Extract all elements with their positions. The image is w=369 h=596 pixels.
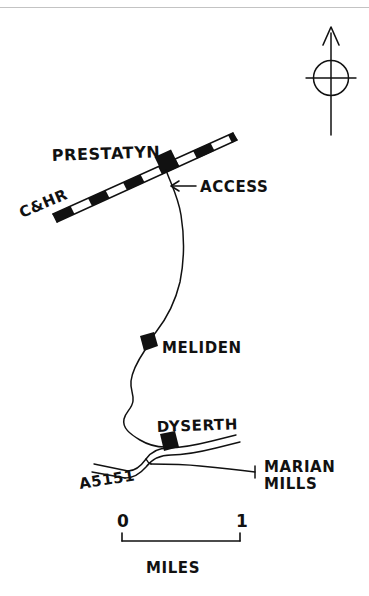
map-canvas: PRESTATYN C&HR ACCESS MELIDEN DYSERTH A5…	[0, 0, 369, 596]
label-a5151: A5151	[78, 466, 136, 493]
label-meliden: MELIDEN	[162, 339, 242, 357]
scale-label-start: 0	[117, 511, 129, 531]
scale-units-label: MILES	[146, 559, 200, 577]
station-marker-meliden	[140, 332, 158, 351]
north-arrow-icon	[306, 27, 356, 135]
scale-bar	[122, 533, 240, 541]
label-marian: MARIAN	[264, 458, 335, 476]
access-arrow-icon	[171, 181, 196, 191]
road-to-marian-mills	[146, 459, 255, 478]
map-drawing: PRESTATYN C&HR ACCESS MELIDEN DYSERTH A5…	[0, 0, 369, 596]
railway-branch-line-dyserth	[124, 170, 184, 447]
label-mills: MILLS	[264, 475, 317, 493]
label-prestatyn: PRESTATYN	[51, 142, 160, 165]
label-access: ACCESS	[200, 178, 268, 196]
scale-label-end: 1	[236, 511, 248, 531]
label-dyserth: DYSERTH	[157, 415, 239, 436]
